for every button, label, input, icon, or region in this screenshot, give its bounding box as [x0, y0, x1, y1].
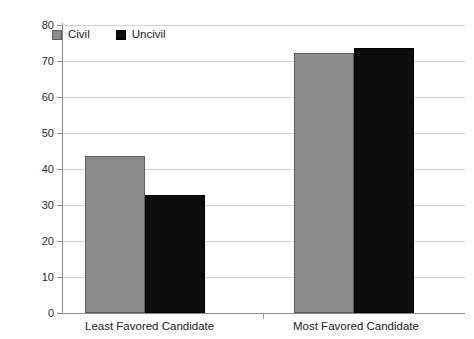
- legend-label-civil: Civil: [68, 29, 90, 41]
- legend-item-uncivil: Uncivil: [116, 29, 166, 41]
- bar-chart: 80706050403020100 Least Favored Candidat…: [0, 0, 474, 339]
- legend-item-civil: Civil: [52, 29, 90, 41]
- y-axis-tick-label: 30: [28, 200, 54, 211]
- y-axis-tick-label: 10: [28, 272, 54, 283]
- x-axis-label-least-favored-candidate: Least Favored Candidate: [85, 320, 205, 333]
- gridline: [62, 25, 465, 26]
- plot-area: [62, 25, 465, 313]
- y-axis-tick-label: 20: [28, 236, 54, 247]
- y-axis-tick-label: 40: [28, 164, 54, 175]
- y-axis-tick-label: 60: [28, 92, 54, 103]
- x-axis-label-most-favored-candidate: Most Favored Candidate: [293, 320, 413, 333]
- civil-swatch-icon: [52, 30, 62, 40]
- bar-uncivil-most-favored-candidate: [354, 48, 414, 313]
- bar-uncivil-least-favored-candidate: [145, 195, 205, 313]
- y-axis-tick-label: 80: [28, 20, 54, 31]
- chart-legend: Civil Uncivil: [52, 29, 166, 41]
- y-axis-tick-label: 70: [28, 56, 54, 67]
- bar-civil-least-favored-candidate: [85, 156, 145, 313]
- y-axis-tick-label: 0: [28, 308, 54, 319]
- category-separator: [263, 313, 264, 319]
- y-axis-tick-label: 50: [28, 128, 54, 139]
- legend-label-uncivil: Uncivil: [132, 29, 166, 41]
- bar-civil-most-favored-candidate: [294, 53, 354, 313]
- y-axis-line: [62, 23, 63, 314]
- uncivil-swatch-icon: [116, 30, 126, 40]
